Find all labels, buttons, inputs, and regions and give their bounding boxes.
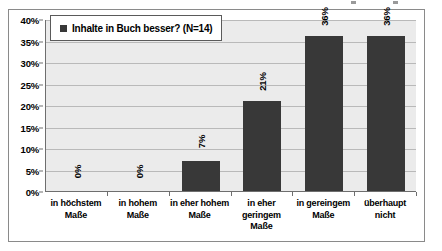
y-axis-tick-label: 15% (21, 122, 39, 133)
crop-artifact-mark (351, 1, 356, 4)
bar-value-label: 7% (195, 135, 206, 148)
y-axis-tick-mark (39, 170, 43, 171)
x-axis-tick-label: in eher geringem Maße (231, 198, 293, 233)
y-axis-tick-label: 10% (21, 144, 39, 155)
y-axis: 0%5%10%15%20%25%30%35%40% (9, 20, 43, 192)
x-axis-tick-label: in höchstem Maße (45, 198, 107, 221)
y-axis-tick-label: 25% (21, 79, 39, 90)
plot-area: 0%0%7%21%36%36% (45, 20, 416, 192)
legend-label: Inhalte in Buch besser? (N=14) (72, 23, 212, 34)
y-axis-tick-mark (39, 41, 43, 42)
x-axis-tick-label: in eher hohem Maße (169, 198, 231, 221)
legend-color-swatch-icon (60, 25, 67, 32)
bar[interactable] (305, 36, 343, 191)
y-axis-tick-mark (39, 63, 43, 64)
y-axis-tick-mark (39, 20, 43, 21)
bar-value-label: 0% (71, 165, 82, 178)
x-axis-tick-label: in hohem Maße (107, 198, 169, 221)
y-axis-tick-mark (39, 127, 43, 128)
y-axis-tick-label: 20% (21, 101, 39, 112)
bar-group: 36% (355, 20, 417, 191)
bar-value-label: 36% (381, 7, 392, 25)
bar-group: 0% (108, 20, 170, 191)
y-axis-tick-label: 35% (21, 36, 39, 47)
crop-artifact-mark (393, 1, 398, 4)
x-axis-tick-mark (292, 192, 293, 196)
y-axis-tick-label: 0% (26, 187, 39, 198)
x-axis-tick-mark (354, 192, 355, 196)
bar-group: 7% (170, 20, 232, 191)
x-axis-tick-mark (107, 192, 108, 196)
bar-value-label: 0% (133, 165, 144, 178)
x-axis-tick-mark (416, 192, 417, 196)
x-axis-tick-label: überhaupt nicht (354, 198, 416, 221)
x-axis-tick-mark (169, 192, 170, 196)
y-axis-tick-mark (39, 149, 43, 150)
y-axis-tick-mark (39, 192, 43, 193)
bar-value-label: 21% (257, 72, 268, 90)
y-axis-tick-label: 5% (26, 165, 39, 176)
y-axis-tick-mark (39, 106, 43, 107)
x-axis-tick-mark (231, 192, 232, 196)
bar[interactable] (367, 36, 405, 191)
bar-group: 0% (46, 20, 108, 191)
cropped-title-artifact (0, 0, 442, 7)
y-axis-tick-mark (39, 84, 43, 85)
bar[interactable] (243, 101, 281, 191)
bar-value-label: 36% (319, 7, 330, 25)
y-axis-tick-label: 40% (21, 15, 39, 26)
chart-legend: Inhalte in Buch besser? (N=14) (50, 15, 222, 41)
bar-group: 21% (232, 20, 294, 191)
x-axis-tick-label: in gereingem Maße (292, 198, 354, 221)
bar-group: 36% (293, 20, 355, 191)
y-axis-tick-label: 30% (21, 58, 39, 69)
chart-container: 0%5%10%15%20%25%30%35%40% 0%0%7%21%36%36… (8, 9, 425, 242)
bar[interactable] (182, 161, 220, 191)
x-axis: in höchstem Maßein hohem Maßein eher hoh… (45, 198, 416, 240)
